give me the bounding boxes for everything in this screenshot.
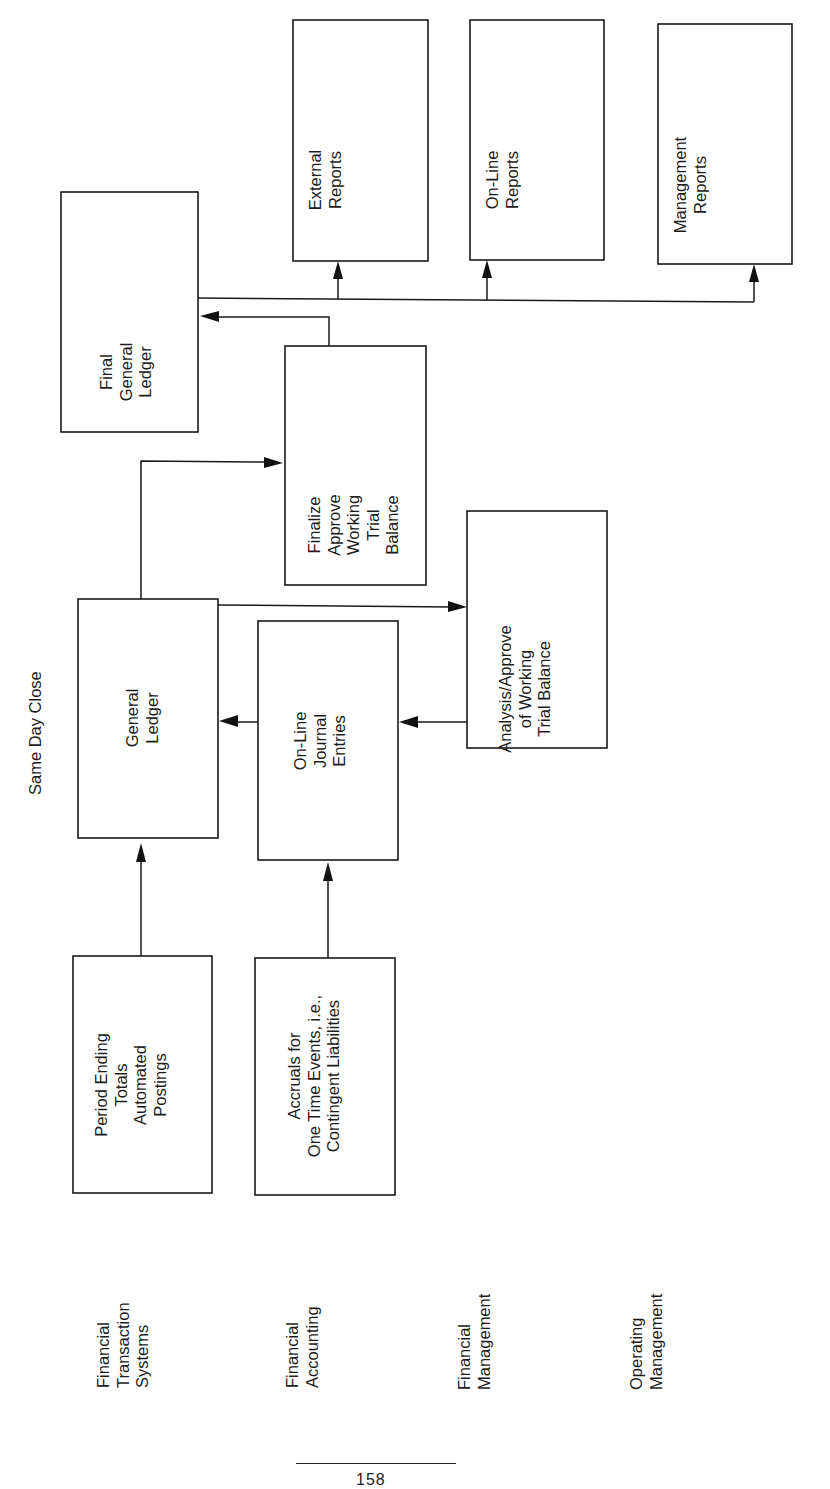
label-line: Finalize xyxy=(305,465,325,585)
arrowhead-icon xyxy=(264,457,283,468)
label-line: Financial xyxy=(455,1294,475,1390)
label-line: Trial xyxy=(364,465,384,585)
arrowhead-icon xyxy=(200,311,219,322)
arrowhead-icon xyxy=(323,862,333,881)
label-line: Trial Balance xyxy=(535,609,555,769)
page-number: 158 xyxy=(356,1471,386,1489)
label-line: Period Ending xyxy=(92,1015,112,1155)
label-line: Balance xyxy=(383,465,403,585)
label-line: Reports xyxy=(503,120,523,240)
period-to-gl-connector xyxy=(136,843,146,956)
label-line: On-Line xyxy=(291,681,311,801)
final-gl-to-reports-connector xyxy=(198,260,759,302)
arrowhead-icon xyxy=(136,843,146,862)
analysis-to-journal-connector xyxy=(399,716,467,728)
gl-to-analysis-connector xyxy=(218,601,467,612)
row-label-financial-transaction-systems: Financial Transaction Systems xyxy=(94,1302,153,1388)
label-line: General xyxy=(123,658,143,778)
journal-to-gl-connector xyxy=(219,715,258,727)
label-line: Automated xyxy=(131,1015,151,1155)
arrowhead-icon xyxy=(448,601,467,612)
arrowhead-icon xyxy=(333,261,343,279)
label-line: Management xyxy=(475,1294,495,1390)
diagram-title: Same Day Close xyxy=(26,671,46,795)
label-line: Working xyxy=(344,465,364,585)
arrowhead-icon xyxy=(749,264,759,282)
label-line: Journal xyxy=(311,681,331,801)
finalize-to-final-gl-connector xyxy=(200,311,329,346)
label-line: General xyxy=(117,312,137,432)
label-line: Analysis/Approve xyxy=(496,609,516,769)
label-line: Systems xyxy=(133,1302,153,1388)
label-line: Financial xyxy=(94,1302,114,1388)
label-line: Reports xyxy=(691,125,711,245)
label-line: Contingent Liabilities xyxy=(324,976,344,1176)
label-line: Accruals for xyxy=(285,976,305,1176)
label-line: Operating xyxy=(627,1294,647,1390)
label-line: Accounting xyxy=(303,1306,323,1388)
label-line: Financial xyxy=(283,1306,303,1388)
label-line: Entries xyxy=(330,681,350,801)
label-line: Ledger xyxy=(136,312,156,432)
label-line: One Time Events, i.e., xyxy=(305,976,325,1176)
label-line: External xyxy=(306,120,326,240)
label-line: Management xyxy=(671,125,691,245)
label-line: Transaction xyxy=(114,1302,134,1388)
arrowhead-icon xyxy=(399,716,418,728)
arrowhead-icon xyxy=(219,715,238,727)
arrowhead-icon xyxy=(482,260,492,278)
label-line: Ledger xyxy=(143,658,163,778)
label-line: Postings xyxy=(151,1015,171,1155)
label-line: Final xyxy=(97,312,117,432)
label-line: Totals xyxy=(112,1015,132,1155)
accruals-to-journal-connector xyxy=(323,862,333,958)
label-line: Reports xyxy=(326,120,346,240)
footer-rule xyxy=(296,1463,456,1464)
row-label-financial-management: Financial Management xyxy=(455,1294,494,1390)
gl-to-finalize-connector xyxy=(141,457,283,599)
label-line: of Working xyxy=(516,609,536,769)
label-line: On-Line xyxy=(483,120,503,240)
label-line: Management xyxy=(647,1294,667,1390)
row-label-operating-management: Operating Management xyxy=(627,1294,666,1390)
row-label-financial-accounting: Financial Accounting xyxy=(283,1306,322,1388)
label-line: Approve xyxy=(325,465,345,585)
